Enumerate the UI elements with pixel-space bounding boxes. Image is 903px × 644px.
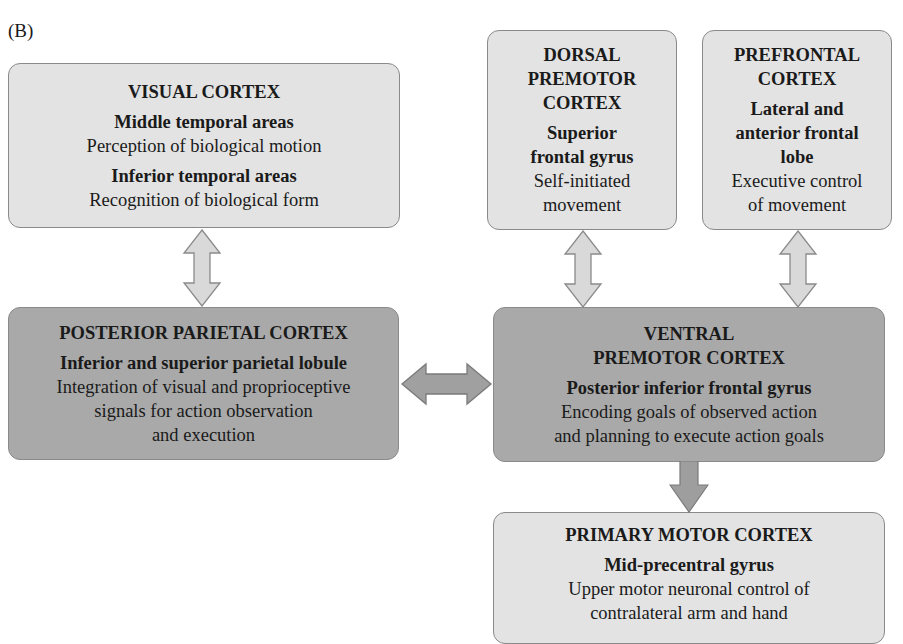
visual-desc-2: Recognition of biological form (89, 188, 319, 212)
dorsal-desc-2: movement (543, 193, 621, 217)
primary-desc-2: contralateral arm and hand (590, 601, 788, 625)
ventral-title-1: VENTRAL (644, 322, 734, 346)
parietal-desc-2: signals for action observation (94, 399, 312, 423)
ventral-premotor-box: VENTRAL PREMOTOR CORTEX Posterior inferi… (493, 307, 885, 462)
primary-title: PRIMARY MOTOR CORTEX (565, 523, 812, 547)
prefrontal-desc-2: of movement (748, 193, 846, 217)
dorsal-title-1: DORSAL (543, 43, 620, 67)
parietal-region: Inferior and superior parietal lobule (60, 351, 347, 375)
prefrontal-title-1: PREFRONTAL (734, 43, 860, 67)
prefrontal-desc-1: Executive control (732, 169, 863, 193)
double-arrow-horizontal-icon (400, 362, 493, 406)
ventral-desc-2: and planning to execute action goals (554, 424, 824, 448)
double-arrow-vertical-icon (778, 230, 818, 308)
parietal-desc-1: Integration of visual and proprioceptive (57, 375, 351, 399)
prefrontal-title-2: CORTEX (758, 67, 837, 91)
parietal-desc-3: and execution (152, 423, 255, 447)
dorsal-title-2: PREMOTOR (528, 67, 637, 91)
panel-label: (B) (8, 20, 33, 42)
visual-region-2: Inferior temporal areas (111, 164, 296, 188)
ventral-desc-1: Encoding goals of observed action (561, 400, 817, 424)
down-arrow-icon (669, 461, 709, 513)
double-arrow-vertical-icon (563, 230, 603, 308)
dorsal-title-3: CORTEX (543, 91, 622, 115)
prefrontal-region-3: lobe (781, 145, 814, 169)
dorsal-region-2: frontal gyrus (531, 145, 634, 169)
primary-region: Mid-precentral gyrus (604, 553, 774, 577)
dorsal-premotor-box: DORSAL PREMOTOR CORTEX Superior frontal … (487, 30, 677, 230)
ventral-region: Posterior inferior frontal gyrus (566, 376, 811, 400)
visual-desc-1: Perception of biological motion (87, 134, 322, 158)
visual-cortex-box: VISUAL CORTEX Middle temporal areas Perc… (8, 63, 400, 228)
double-arrow-vertical-icon (182, 229, 222, 307)
prefrontal-region-2: anterior frontal (735, 121, 858, 145)
prefrontal-region-1: Lateral and (750, 97, 843, 121)
prefrontal-box: PREFRONTAL CORTEX Lateral and anterior f… (702, 30, 892, 230)
ventral-title-2: PREMOTOR CORTEX (593, 346, 785, 370)
visual-region-1: Middle temporal areas (114, 110, 294, 134)
primary-motor-box: PRIMARY MOTOR CORTEX Mid-precentral gyru… (493, 512, 885, 644)
dorsal-region-1: Superior (547, 121, 617, 145)
dorsal-desc-1: Self-initiated (534, 169, 631, 193)
primary-desc-1: Upper motor neuronal control of (568, 577, 809, 601)
visual-cortex-title: VISUAL CORTEX (128, 80, 280, 104)
parietal-title: POSTERIOR PARIETAL CORTEX (59, 321, 348, 345)
posterior-parietal-box: POSTERIOR PARIETAL CORTEX Inferior and s… (8, 307, 399, 460)
